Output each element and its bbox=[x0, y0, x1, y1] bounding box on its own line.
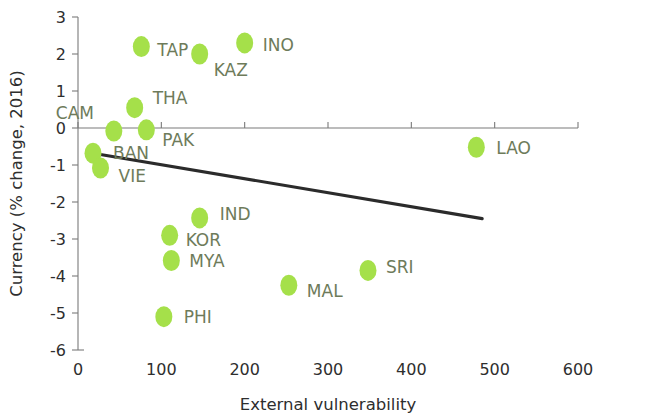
point-label-cam: CAM bbox=[56, 103, 94, 123]
marker-pak bbox=[138, 119, 155, 140]
point-label-tap: TAP bbox=[156, 40, 188, 60]
data-point-lao[interactable]: LAO bbox=[468, 137, 531, 159]
marker-mal bbox=[280, 275, 297, 296]
y-tick-label--5: -5 bbox=[50, 304, 66, 323]
point-label-kor: KOR bbox=[186, 230, 222, 250]
x-axis-title: External vulnerability bbox=[240, 395, 417, 414]
point-label-tha: THA bbox=[152, 88, 188, 108]
marker-kaz bbox=[191, 44, 208, 65]
marker-tha bbox=[126, 97, 143, 118]
x-tick-label-500: 500 bbox=[479, 360, 510, 379]
point-label-phi: PHI bbox=[184, 307, 212, 327]
point-label-ind: IND bbox=[220, 204, 251, 224]
x-tick-label-100: 100 bbox=[146, 360, 177, 379]
marker-vie bbox=[92, 157, 109, 178]
trendline bbox=[93, 153, 482, 218]
point-label-ban: BAN bbox=[113, 143, 149, 163]
marker-sri bbox=[360, 260, 377, 281]
plot-canvas: 3210-1-2-3-4-5-60100200300400500600 TAPK… bbox=[0, 0, 649, 419]
data-point-mya[interactable]: MYA bbox=[163, 250, 225, 272]
y-tick-label--2: -2 bbox=[50, 193, 66, 212]
marker-kor bbox=[161, 225, 178, 246]
axes-group: 3210-1-2-3-4-5-60100200300400500600 bbox=[50, 8, 593, 379]
point-label-ino: INO bbox=[263, 35, 294, 55]
data-point-kor[interactable]: KOR bbox=[161, 225, 221, 251]
y-tick-label--3: -3 bbox=[50, 230, 66, 249]
point-label-mal: MAL bbox=[307, 281, 343, 301]
data-point-tha[interactable]: THA bbox=[126, 88, 188, 119]
trendline-group bbox=[93, 153, 482, 218]
data-points-group: TAPKAZINOTHACAMPAKBANVIEINDKORMYAMALSRIP… bbox=[56, 32, 531, 327]
x-tick-label-0: 0 bbox=[73, 360, 83, 379]
point-label-sri: SRI bbox=[386, 257, 414, 277]
marker-mya bbox=[163, 250, 180, 271]
y-tick-label--4: -4 bbox=[50, 267, 66, 286]
marker-cam bbox=[105, 120, 122, 141]
y-axis-title: Currency (% change, 2016) bbox=[7, 70, 26, 297]
point-label-lao: LAO bbox=[496, 138, 531, 158]
y-tick-label--6: -6 bbox=[50, 341, 66, 360]
data-point-sri[interactable]: SRI bbox=[360, 257, 414, 281]
x-tick-label-300: 300 bbox=[313, 360, 344, 379]
marker-lao bbox=[468, 137, 485, 158]
scatter-chart-figure: 3210-1-2-3-4-5-60100200300400500600 TAPK… bbox=[0, 0, 649, 419]
data-point-phi[interactable]: PHI bbox=[155, 306, 212, 327]
marker-ind bbox=[191, 207, 208, 228]
data-point-tap[interactable]: TAP bbox=[133, 36, 188, 60]
data-point-ino[interactable]: INO bbox=[236, 32, 294, 55]
point-label-pak: PAK bbox=[162, 130, 195, 150]
marker-phi bbox=[155, 306, 172, 327]
marker-ino bbox=[236, 32, 253, 53]
y-tick-label-3: 3 bbox=[56, 8, 66, 27]
marker-tap bbox=[133, 36, 150, 57]
point-label-vie: VIE bbox=[119, 166, 146, 186]
point-label-mya: MYA bbox=[189, 251, 225, 271]
data-point-mal[interactable]: MAL bbox=[280, 275, 343, 302]
y-tick-label-1: 1 bbox=[56, 82, 66, 101]
point-label-kaz: KAZ bbox=[214, 60, 248, 80]
x-tick-label-400: 400 bbox=[396, 360, 427, 379]
x-tick-label-600: 600 bbox=[563, 360, 594, 379]
x-tick-label-200: 200 bbox=[229, 360, 260, 379]
y-tick-label-2: 2 bbox=[56, 45, 66, 64]
data-point-ind[interactable]: IND bbox=[191, 204, 250, 229]
y-tick-label--1: -1 bbox=[50, 156, 66, 175]
data-point-ban[interactable]: BAN bbox=[85, 143, 150, 164]
